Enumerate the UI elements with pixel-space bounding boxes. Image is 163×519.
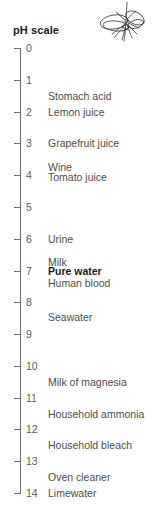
tick-label-1: 1 [26,75,32,86]
substance-label: Milk [48,256,67,267]
tick-label-2: 2 [26,106,32,117]
tick-label-9: 9 [26,329,32,340]
substance-label: Oven cleaner [48,472,110,483]
substance-label: Milk of magnesia [48,377,127,388]
substance-label: Limewater [48,488,96,499]
axis-tick-4 [14,175,20,176]
tick-label-5: 5 [26,202,32,213]
axis-tick-9 [14,334,20,335]
axis-line [20,48,21,493]
tick-label-8: 8 [26,297,32,308]
axis-tick-6 [14,239,20,240]
tick-label-3: 3 [26,138,32,149]
axis-tick-0 [14,48,21,49]
tick-label-6: 6 [26,233,32,244]
substance-label: Stomach acid [48,90,112,101]
page-title: pH scale [13,24,59,36]
axis-tick-12 [14,429,20,430]
substance-label: Human blood [48,277,110,288]
axis-tick-14 [14,493,21,494]
axis-tick-1 [14,80,20,81]
ph-axis: 01234567891011121314Stomach acidLemon ju… [0,0,163,519]
substance-label: Tomato juice [48,171,107,182]
tick-label-0: 0 [26,43,32,54]
substance-label: Household ammonia [48,408,144,419]
substance-label: Grapefruit juice [48,138,119,149]
tick-label-11: 11 [26,392,37,403]
substance-label: Pure water [48,265,102,276]
axis-tick-5 [14,207,20,208]
insect-icon [94,0,156,46]
tick-label-4: 4 [26,170,32,181]
substance-label: Seawater [48,311,92,322]
axis-tick-11 [14,398,20,399]
substance-label: Lemon juice [48,106,105,117]
axis-tick-13 [14,461,20,462]
substance-label: Urine [48,233,73,244]
tick-label-10: 10 [26,361,38,372]
axis-tick-2 [14,112,20,113]
tick-label-13: 13 [26,456,38,467]
tick-label-14: 14 [26,488,38,499]
axis-tick-10 [14,366,20,367]
tick-label-12: 12 [26,424,38,435]
tick-label-7: 7 [26,265,32,276]
substance-label: Household bleach [48,440,132,451]
substance-label: Wine [48,162,72,173]
axis-tick-8 [14,302,20,303]
axis-tick-3 [14,143,20,144]
axis-tick-7 [14,271,20,272]
